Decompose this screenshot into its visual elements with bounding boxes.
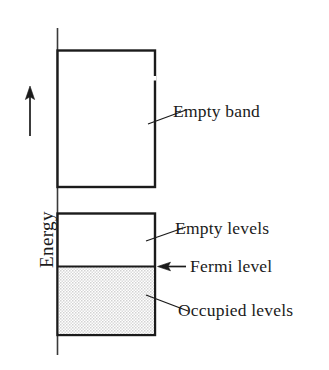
occupied-levels-fill [59, 267, 154, 334]
empty-band-label: Empty band [173, 103, 260, 121]
empty-levels-label: Empty levels [175, 220, 269, 238]
energy-band-diagram: Energy Empty band Empty levels Fermi lev… [0, 0, 329, 370]
up-arrow-icon [25, 86, 34, 136]
occupied-levels-label: Occupied levels [178, 302, 293, 320]
edge-artifact [153, 76, 157, 81]
energy-axis-label: Energy [36, 211, 58, 268]
empty-band-box [58, 51, 156, 188]
fermi-level-label: Fermi level [190, 258, 272, 276]
left-arrow-icon [158, 262, 187, 271]
